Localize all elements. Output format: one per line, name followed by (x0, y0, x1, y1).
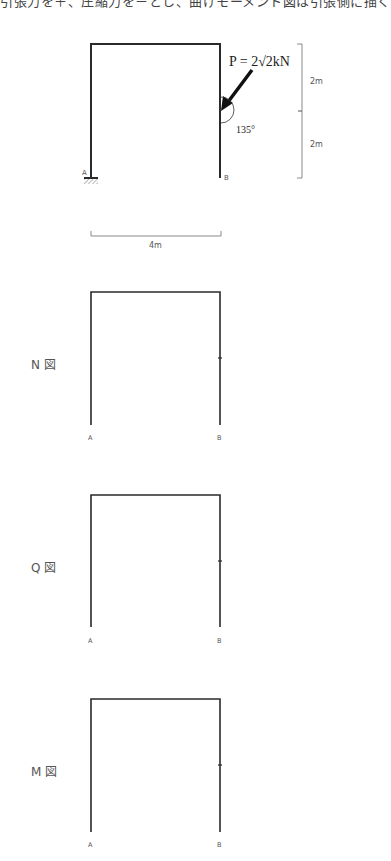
q-diagram-title: Q 図 (31, 558, 56, 575)
node-a-label: A (88, 841, 93, 849)
portal-frame-members (91, 44, 220, 178)
horizontal-dimension (91, 231, 221, 236)
node-a-label: A (88, 637, 93, 645)
node-b-label: B (224, 174, 229, 182)
m-diagram-title: M 図 (31, 762, 57, 779)
node-b-label: B (217, 434, 221, 442)
q-diagram-frame: A B (88, 495, 222, 645)
dimension-lower-label: 2m (310, 140, 323, 149)
dimension-upper-label: 2m (310, 77, 323, 86)
node-a-label: A (82, 169, 87, 177)
m-diagram-frame: A B (88, 699, 222, 849)
load-label: P = 2√2kN (229, 54, 290, 69)
node-a-label: A (88, 434, 93, 442)
load-arrow-icon (221, 70, 252, 111)
node-b-label: B (217, 637, 221, 645)
angle-label: 135° (236, 124, 255, 135)
problem-frame: A B P = 2√2kN 135° 2m 2m 4m (82, 44, 323, 250)
node-b-label: B (217, 841, 221, 849)
vertical-dimension (297, 44, 302, 178)
n-diagram-frame: A B (88, 292, 222, 442)
fixed-support-icon (84, 178, 98, 184)
dimension-span-label: 4m (149, 241, 162, 250)
n-diagram-title: N 図 (31, 355, 56, 372)
